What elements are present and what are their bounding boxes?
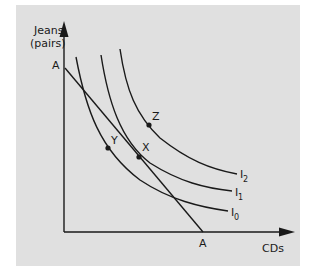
- point-y-label: Y: [110, 134, 118, 147]
- y-axis-label-line2: (pairs): [30, 37, 66, 50]
- y-axis-label-line1: Jeans: [33, 24, 64, 37]
- curve-label-i2: I 2: [240, 168, 248, 184]
- budget-y-intercept-label: A: [52, 59, 60, 72]
- indifference-curve-diagram: Jeans (pairs) CDs A A Y X Z I 0 I 1 I 2: [0, 0, 311, 280]
- svg-text:0: 0: [234, 213, 239, 222]
- svg-text:1: 1: [238, 193, 243, 202]
- indifference-curve-i1: [101, 55, 232, 191]
- budget-x-intercept-label: A: [199, 237, 207, 250]
- indifference-curve-i0: [76, 57, 228, 211]
- x-axis-arrow-icon: [279, 228, 295, 237]
- budget-line: [65, 68, 203, 232]
- point-z-label: Z: [152, 110, 160, 123]
- curve-label-i1: I 1: [235, 186, 243, 202]
- y-axis: [60, 21, 69, 232]
- point-x-label: X: [142, 141, 150, 154]
- point-y: [105, 145, 110, 150]
- curve-label-i0: I 0: [231, 206, 239, 222]
- x-axis-label: CDs: [262, 242, 284, 255]
- point-z: [146, 122, 151, 127]
- svg-text:2: 2: [243, 175, 248, 184]
- x-axis: [64, 228, 295, 237]
- point-x: [136, 154, 141, 159]
